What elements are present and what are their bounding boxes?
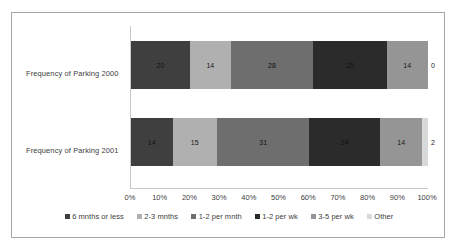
legend-label: 1-2 per mnth: [199, 212, 242, 221]
bar-segment-1-2-per-mnth: 28: [231, 41, 313, 89]
bar-value-label: 25: [346, 62, 354, 69]
x-tick-0: 0%: [125, 193, 136, 202]
bar-value-label: 2: [431, 139, 435, 146]
bar-segment-other: 2: [422, 118, 428, 166]
x-tick-80: 80%: [360, 193, 375, 202]
legend-item-1-2-per-mnth[interactable]: 1-2 per mnth: [191, 212, 242, 221]
x-axis-tick-labels: 0%10%20%30%40%50%60%70%80%90%100%: [130, 193, 428, 205]
bar-value-label: 20: [156, 62, 164, 69]
legend-label: 2-3 mnths: [144, 212, 178, 221]
chart-legend: 6 mnths or less2-3 mnths1-2 per mnth1-2 …: [12, 212, 446, 221]
legend-item-other[interactable]: Other: [367, 212, 394, 221]
x-tick-10: 10%: [152, 193, 167, 202]
bar-segment-3-5-per-wk: 14: [387, 41, 428, 89]
bar-segment-3-5-per-wk: 14: [380, 118, 422, 166]
stacked-bar-2001: 14153124142: [131, 118, 428, 166]
legend-swatch-icon: [255, 214, 260, 219]
bar-value-label: 24: [341, 139, 349, 146]
x-tick-30: 30%: [212, 193, 227, 202]
legend-swatch-icon: [311, 214, 316, 219]
bar-value-label: 0: [431, 62, 435, 69]
bar-value-label: 14: [148, 139, 156, 146]
legend-item-1-2-per-wk[interactable]: 1-2 per wk: [255, 212, 298, 221]
legend-item-6-mnths-or-less[interactable]: 6 mnths or less: [65, 212, 124, 221]
legend-swatch-icon: [65, 214, 70, 219]
bar-segment-6-mnths-or-less: 14: [131, 118, 173, 166]
legend-swatch-icon: [367, 214, 372, 219]
bar-value-label: 28: [268, 62, 276, 69]
category-label-2001: Frequency of Parking 2001: [26, 146, 130, 155]
legend-item-3-5-per-wk[interactable]: 3-5 per wk: [311, 212, 354, 221]
bar-value-label: 14: [403, 62, 411, 69]
bar-segment-6-mnths-or-less: 20: [131, 41, 190, 89]
bar-value-label: 15: [191, 139, 199, 146]
bar-value-label: 31: [259, 139, 267, 146]
bar-segment-1-2-per-wk: 25: [313, 41, 387, 89]
x-tick-40: 40%: [241, 193, 256, 202]
x-tick-70: 70%: [330, 193, 345, 202]
legend-swatch-icon: [191, 214, 196, 219]
chart-container: Frequency of Parking 2000 Frequency of P…: [11, 12, 445, 238]
legend-label: Other: [374, 212, 393, 221]
x-tick-20: 20%: [182, 193, 197, 202]
bar-segment-1-2-per-wk: 24: [309, 118, 380, 166]
category-label-2000: Frequency of Parking 2000: [26, 69, 130, 78]
legend-label: 6 mnths or less: [72, 212, 124, 221]
bar-segment-2-3-mnths: 15: [173, 118, 218, 166]
bar-value-label: 14: [397, 139, 405, 146]
x-tick-50: 50%: [271, 193, 286, 202]
x-tick-100: 100%: [417, 193, 436, 202]
stacked-bar-2000: 20142825140: [131, 41, 428, 89]
bar-segment-1-2-per-mnth: 31: [217, 118, 309, 166]
legend-item-2-3-mnths[interactable]: 2-3 mnths: [137, 212, 178, 221]
bar-segment-2-3-mnths: 14: [190, 41, 231, 89]
x-tick-90: 90%: [390, 193, 405, 202]
legend-label: 1-2 per wk: [262, 212, 298, 221]
x-axis-line: [130, 188, 428, 189]
plot-area: 20142825140 14153124142: [130, 26, 428, 189]
legend-swatch-icon: [137, 214, 142, 219]
bar-value-label: 14: [206, 62, 214, 69]
legend-label: 3-5 per wk: [318, 212, 354, 221]
x-tick-60: 60%: [301, 193, 316, 202]
